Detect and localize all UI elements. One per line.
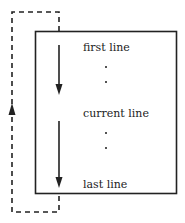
down-arrowhead-icon [56, 84, 63, 95]
down-arrowhead-icon [56, 177, 63, 188]
ellipsis-dot [105, 132, 107, 134]
ellipsis-dot [105, 147, 107, 149]
up-arrowhead-icon [9, 103, 16, 115]
last-line-label: last line [83, 179, 127, 190]
first-line-label: first line [83, 42, 130, 53]
wraparound-diagram: first line current line last line [0, 0, 185, 223]
ellipsis-dot [105, 81, 107, 83]
ellipsis-dot [105, 66, 107, 68]
current-line-label: current line [83, 108, 149, 119]
